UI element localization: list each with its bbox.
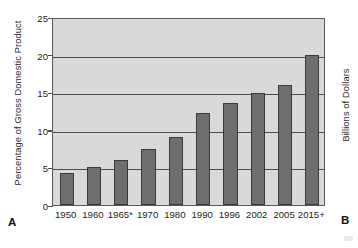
- y-tick-label: 10: [26, 125, 48, 136]
- bar: [223, 103, 237, 205]
- bar: [60, 173, 74, 205]
- bar: [87, 167, 101, 205]
- x-tick-label: 1980: [164, 209, 185, 220]
- x-tick-label: 1965*: [108, 209, 133, 220]
- x-tick-label: 1996: [219, 209, 240, 220]
- x-tick-label: 2015+: [298, 209, 325, 220]
- bar: [196, 113, 210, 205]
- panel-b-chart: Billions of Dollars: [332, 0, 358, 248]
- x-axis-tick-labels: 195019601965*197019801990199620022005201…: [52, 209, 325, 225]
- x-tick-label: 2005: [273, 209, 294, 220]
- y-tick-label: 5: [26, 163, 48, 174]
- x-tick-label: 1960: [82, 209, 103, 220]
- y-tick-label: 0: [26, 201, 48, 212]
- y-tick-label: 20: [26, 50, 48, 61]
- x-tick-label: 1950: [55, 209, 76, 220]
- panel-a-chart: Percentage of Gross Domestic Product 051…: [0, 0, 332, 248]
- bar: [169, 137, 183, 205]
- y-tick-label: 15: [26, 88, 48, 99]
- bar: [251, 93, 265, 205]
- y-axis-ticks: 0510152025: [22, 18, 48, 206]
- bar: [278, 85, 292, 205]
- bars-layer: [53, 19, 324, 205]
- x-tick-label: 2002: [246, 209, 267, 220]
- bar: [305, 55, 319, 205]
- panel-letter-a: A: [8, 216, 16, 228]
- bar: [141, 149, 155, 205]
- panel-letter-b: B: [341, 214, 349, 226]
- figure: Percentage of Gross Domestic Product 051…: [0, 0, 358, 248]
- panel-b-y-axis-title: Billions of Dollars: [341, 55, 351, 155]
- x-tick-label: 1970: [137, 209, 158, 220]
- x-tick-label: 1990: [191, 209, 212, 220]
- crop-artifact: [344, 236, 353, 241]
- y-tick-label: 25: [26, 13, 48, 24]
- plot-area: [52, 18, 325, 206]
- bar: [114, 160, 128, 205]
